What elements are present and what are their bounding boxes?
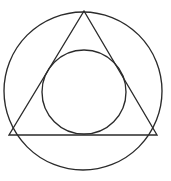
- figure-background: [0, 0, 171, 181]
- emblem-figure: Squared circle alchemical emblem A large…: [0, 0, 171, 181]
- emblem-diagram: [0, 0, 171, 181]
